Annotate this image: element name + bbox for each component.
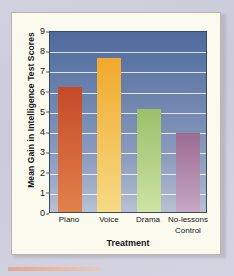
figure-card: Mean Gain in Intelligence Test Scores 01… — [11, 12, 221, 255]
y-axis-tick-label: 3 — [32, 148, 45, 157]
y-axis-tick-label: 9 — [32, 27, 45, 36]
y-axis-tick-label: 1 — [32, 188, 45, 197]
y-axis-tick-label: 4 — [32, 128, 45, 137]
y-axis-tick-label: 6 — [32, 87, 45, 96]
bar — [176, 133, 200, 212]
bar — [58, 87, 82, 212]
decorative-strip — [8, 267, 102, 271]
y-axis-tick-label: 7 — [32, 67, 45, 76]
bar-chart: Mean Gain in Intelligence Test Scores 01… — [12, 13, 222, 256]
y-axis-ticks: 0123456789 — [32, 31, 45, 213]
x-axis-title: Treatment — [49, 238, 207, 248]
bar-series — [50, 32, 206, 212]
plot-area — [49, 31, 207, 213]
bar — [97, 58, 121, 212]
y-axis-tick-mark — [46, 213, 49, 214]
y-axis-tick-label: 2 — [32, 168, 45, 177]
x-axis-tick-label: No-lessonsControl — [162, 215, 214, 236]
y-axis-tick-label: 5 — [32, 107, 45, 116]
y-axis-tick-label: 8 — [32, 47, 45, 56]
page-background: Mean Gain in Intelligence Test Scores 01… — [0, 0, 234, 276]
bar — [137, 109, 161, 212]
